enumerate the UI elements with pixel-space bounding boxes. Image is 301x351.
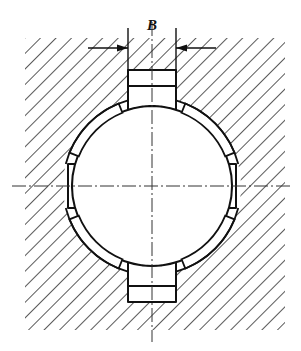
dimension-b-label: B (146, 17, 157, 33)
cross-section-drawing: B (0, 0, 301, 351)
technical-drawing-canvas: B (0, 0, 301, 351)
